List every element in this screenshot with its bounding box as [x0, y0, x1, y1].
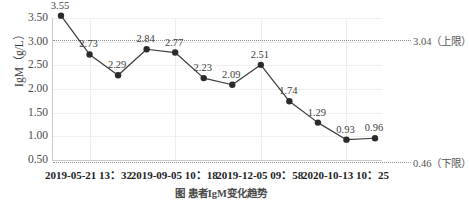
y-axis-tick-label: 2.50: [14, 60, 48, 72]
data-point-marker: [229, 82, 235, 88]
data-point-marker: [115, 72, 121, 78]
data-point-marker: [343, 136, 349, 142]
figure-caption: 图 患者IgM变化趋势: [0, 185, 442, 200]
lower-limit-label: 0.46（下限）: [413, 154, 469, 169]
x-axis-tick-label: 2019-05-21 13：32: [45, 166, 132, 182]
data-point-marker: [201, 75, 207, 81]
x-axis-line: [52, 160, 382, 161]
y-axis-tick-label: 1.00: [14, 131, 48, 143]
x-axis-tick-label: 2019-12-05 09：58: [216, 166, 303, 182]
x-axis-tick-label: 2020-10-13 10：25: [302, 166, 389, 182]
upper-limit-label: 3.04（上限）: [413, 32, 469, 47]
y-axis-tick-label: 2.00: [14, 83, 48, 95]
data-point-label: 0.96: [365, 123, 383, 134]
data-point-label: 2.51: [251, 49, 269, 60]
x-axis-tick-label: 2019-09-05 10：18: [131, 166, 218, 182]
data-point-marker: [86, 51, 92, 57]
data-point-label: 1.74: [279, 86, 297, 97]
data-point-label: 2.73: [79, 39, 97, 50]
y-axis-tick-label: 0.50: [14, 154, 48, 166]
series-polyline: [61, 16, 375, 140]
series-line-igm: [53, 18, 383, 160]
data-point-label: 2.77: [165, 37, 183, 48]
data-point-marker: [372, 135, 378, 141]
data-point-marker: [58, 12, 64, 18]
data-point-label: 1.29: [308, 107, 326, 118]
y-axis-tick-label: 1.50: [14, 107, 48, 119]
data-point-marker: [143, 46, 149, 52]
data-point-marker: [172, 49, 178, 55]
data-point-marker: [315, 119, 321, 125]
plot-area: [52, 18, 382, 160]
lower-limit-line: [53, 162, 411, 163]
data-point-label: 2.23: [194, 63, 212, 74]
data-point-label: 2.84: [136, 34, 154, 45]
data-point-label: 2.29: [108, 60, 126, 71]
data-point-label: 0.93: [336, 124, 354, 135]
y-axis-tick-labels: 0.501.001.502.002.503.003.50: [8, 0, 48, 192]
data-point-label: 2.09: [222, 69, 240, 80]
y-axis-tick-label: 3.50: [14, 12, 48, 24]
y-axis-tick-label: 3.00: [14, 36, 48, 48]
data-point-label: 3.55: [51, 0, 69, 11]
data-point-marker: [258, 62, 264, 68]
data-point-marker: [286, 98, 292, 104]
